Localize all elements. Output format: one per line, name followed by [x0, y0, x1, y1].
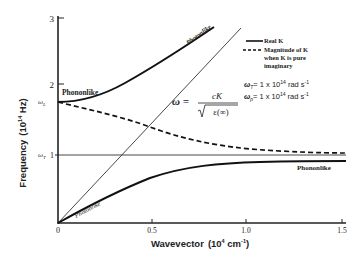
- imaginary-k-dashed-curve: [58, 102, 346, 153]
- light-line-formula: ω = cK ε(∞): [172, 91, 238, 117]
- legend-real-k-label: Real K: [264, 37, 283, 44]
- photonlike-lower-label: Photonlike: [72, 199, 101, 219]
- omega-t-label: ωT: [38, 151, 47, 160]
- y-tick-label-3: 3: [50, 14, 55, 24]
- phononlike-lower-label: Phononlike: [297, 164, 331, 172]
- x-axis-title: Wavevector(104 cm-1): [151, 238, 249, 249]
- formula-lhs: ω =: [172, 95, 189, 107]
- legend-imag-k-label-1: Magnitude of K: [264, 46, 308, 53]
- legend-imag-k-label-3: imaginary: [264, 62, 293, 69]
- x-tick-label-0.5: 0.5: [147, 226, 157, 235]
- legend: Real K Magnitude of K when K is pure ima…: [243, 37, 308, 69]
- y-tick-label-1: 1: [50, 151, 54, 160]
- y-tick-label-2: 2: [50, 80, 55, 90]
- formula-denominator: ε(∞): [213, 107, 228, 117]
- photonlike-upper-label: Photonlike: [184, 23, 212, 46]
- x-tick-label-1.5: 1.5: [337, 226, 347, 235]
- param-omega-p: ωp= 1 x 1014 rad s-1: [244, 91, 309, 102]
- phononlike-upper-label: Phononlike: [62, 88, 99, 97]
- formula-numerator: cK: [212, 91, 223, 101]
- dispersion-chart: 3 2 1 ωL ωT 0 0.5 1.0 1.5 Wavevector(104…: [0, 0, 361, 262]
- omega-l-label: ωL: [38, 98, 46, 107]
- light-line: [58, 28, 241, 223]
- x-tick-label-0: 0: [56, 226, 60, 235]
- y-axis-title: Frequency(1014 Hz): [17, 98, 28, 187]
- legend-imag-k-label-2: when K is pure: [264, 54, 306, 61]
- param-omega-t: ωT= 1 x 1014 rad s-1: [244, 79, 309, 90]
- x-tick-label-1.0: 1.0: [241, 226, 251, 235]
